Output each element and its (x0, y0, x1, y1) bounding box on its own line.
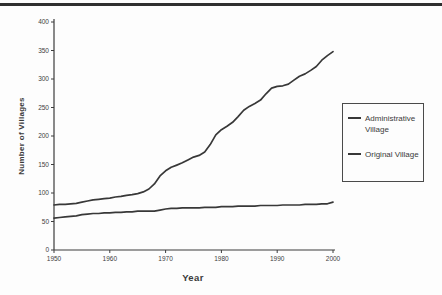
x-axis-title: Year (182, 272, 204, 283)
administrative-village-line (54, 52, 333, 205)
legend: Administrative Village Original Village (342, 103, 424, 182)
y-tick-label: 50 (42, 218, 50, 225)
x-tick-label: 1950 (47, 255, 62, 262)
original-village-line (54, 202, 333, 218)
legend-label: Administrative Village (365, 113, 423, 135)
y-tick-label: 400 (38, 18, 49, 25)
x-tick-label: 2000 (326, 255, 341, 262)
x-tick-label: 1990 (270, 255, 285, 262)
y-tick-label: 250 (38, 104, 49, 111)
figure-page: 0501001502002503003504001950196019701980… (0, 0, 442, 295)
y-tick-label: 0 (45, 246, 49, 253)
legend-item-administrative-village: Administrative Village (348, 113, 423, 135)
y-tick-label: 100 (38, 189, 49, 196)
y-tick-label: 150 (38, 161, 49, 168)
line-marker-icon (348, 117, 361, 119)
x-tick-label: 1960 (103, 255, 118, 262)
x-tick-label: 1980 (214, 255, 229, 262)
line-marker-icon (348, 153, 361, 155)
y-tick-label: 350 (38, 47, 49, 54)
legend-label: Original Village (365, 149, 423, 160)
y-tick-label: 300 (38, 75, 49, 82)
legend-item-original-village: Original Village (348, 149, 423, 160)
y-tick-label: 200 (38, 132, 49, 139)
x-tick-label: 1970 (158, 255, 173, 262)
y-axis-title: Number of Villages (17, 97, 26, 175)
